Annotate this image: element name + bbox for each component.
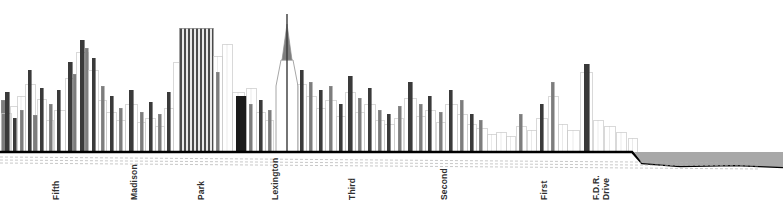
street-label-madison: Madison [130, 164, 140, 200]
building-8 [28, 70, 31, 152]
building-21 [85, 48, 88, 152]
street-label-line: Fifth [52, 181, 62, 200]
building-100 [551, 82, 554, 152]
building-86 [460, 100, 463, 152]
street-label-park: Park [197, 181, 207, 200]
street-label-second: Second [440, 168, 450, 200]
building-31 [129, 90, 133, 152]
street-label-line: Drive [602, 175, 612, 200]
building-20 [80, 40, 84, 152]
building-76 [408, 82, 412, 152]
skyline-elevation-figure: FifthMadisonParkLexingtonThirdSecondFirs… [0, 0, 783, 221]
building-66 [358, 98, 361, 152]
building-15 [57, 90, 60, 152]
building-52 [268, 110, 271, 152]
skyline-drawing [0, 0, 783, 221]
building-88 [470, 114, 473, 152]
street-label-line: Park [197, 181, 207, 200]
buildings-group [1, 28, 637, 152]
building-11 [40, 88, 43, 152]
building-2 [5, 92, 9, 152]
building-41 [179, 28, 213, 152]
building-62 [339, 104, 342, 152]
building-64 [348, 76, 352, 152]
building-98 [540, 104, 543, 152]
building-54 [300, 70, 303, 152]
building-56 [309, 82, 312, 152]
street-label-line: Madison [130, 164, 140, 200]
building-33 [140, 112, 143, 152]
building-48 [249, 104, 252, 152]
street-label-lexington: Lexington [271, 158, 281, 200]
street-label-f-d-r-drive: F.D.R.Drive [592, 175, 611, 200]
building-40 [173, 62, 179, 152]
building-82 [439, 112, 442, 152]
building-27 [110, 96, 113, 152]
street-label-line: Second [440, 168, 450, 200]
street-label-first: First [540, 181, 550, 200]
building-46 [236, 96, 246, 152]
street-label-third: Third [348, 178, 358, 200]
building-50 [259, 100, 262, 152]
building-80 [428, 96, 431, 152]
street-label-fifth: Fifth [52, 181, 62, 200]
building-84 [449, 90, 452, 152]
building-68 [368, 88, 371, 152]
building-70 [378, 110, 381, 152]
building-23 [92, 58, 95, 152]
building-13 [49, 104, 52, 152]
building-17 [68, 62, 72, 152]
building-74 [398, 106, 401, 152]
building-95 [519, 114, 522, 152]
building-18 [73, 74, 76, 152]
building-60 [329, 86, 332, 152]
building-9 [33, 115, 37, 152]
chrysler-spire [276, 14, 298, 152]
street-label-line: Third [348, 178, 358, 200]
building-35 [149, 102, 152, 152]
building-58 [319, 90, 322, 152]
building-104 [584, 64, 589, 152]
building-4 [13, 118, 16, 152]
street-label-line: First [540, 181, 550, 200]
building-29 [119, 108, 122, 152]
building-6 [20, 110, 23, 152]
building-78 [419, 104, 422, 152]
street-label-line: Lexington [271, 158, 281, 200]
building-72 [387, 114, 390, 152]
building-25 [101, 86, 104, 152]
building-39 [167, 92, 170, 152]
building-43 [216, 72, 219, 152]
building-37 [158, 114, 161, 152]
building-90 [479, 120, 482, 152]
